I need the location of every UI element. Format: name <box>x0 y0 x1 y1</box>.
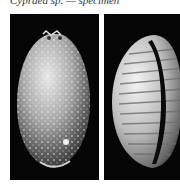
figure-caption-cropped: Cypraea sp. — specimen <box>10 0 119 6</box>
ventral-view-photo <box>104 14 180 180</box>
dorsal-view-photo <box>10 14 99 180</box>
cowrie-shell-ventral <box>104 14 180 180</box>
cowrie-shell-dorsal <box>10 14 99 180</box>
